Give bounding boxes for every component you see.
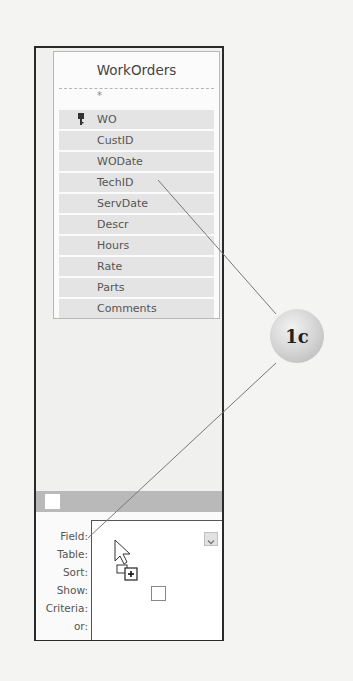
field-label: ServDate xyxy=(97,197,148,210)
row-label-sort: Sort: xyxy=(63,566,88,578)
field-item-hours[interactable]: Hours xyxy=(59,236,214,255)
field-label: WO xyxy=(97,113,117,126)
design-grid-column[interactable] xyxy=(91,520,222,640)
field-label: Parts xyxy=(97,281,124,294)
field-label: Hours xyxy=(97,239,129,252)
field-item-custid[interactable]: CustID xyxy=(59,131,214,150)
chevron-down-icon xyxy=(205,536,217,548)
field-item-parts[interactable]: Parts xyxy=(59,278,214,297)
workorders-field-list[interactable]: WorkOrders * WO CustID WODate TechID Ser… xyxy=(53,51,220,319)
row-label-show: Show: xyxy=(57,584,88,596)
title-divider xyxy=(59,88,214,89)
table-title: WorkOrders xyxy=(54,62,219,78)
pane-splitter-bar[interactable] xyxy=(36,491,222,512)
row-label-criteria: Criteria: xyxy=(46,602,88,614)
field-item-descr[interactable]: Descr xyxy=(59,215,214,234)
row-label-or: or: xyxy=(74,620,88,632)
callout-label: 1c xyxy=(270,309,324,363)
field-label: Comments xyxy=(97,302,157,315)
show-checkbox[interactable] xyxy=(151,586,166,601)
field-label: Rate xyxy=(97,260,122,273)
field-item-rate[interactable]: Rate xyxy=(59,257,214,276)
field-item-wo[interactable]: WO xyxy=(59,110,214,129)
field-item-comments[interactable]: Comments xyxy=(59,299,214,318)
row-label-table: Table: xyxy=(57,548,88,560)
field-label: WODate xyxy=(97,155,143,168)
field-item-wodate[interactable]: WODate xyxy=(59,152,214,171)
row-label-field: Field: xyxy=(60,530,88,542)
primary-key-icon xyxy=(78,113,84,125)
field-label: CustID xyxy=(97,134,133,147)
field-item-servdate[interactable]: ServDate xyxy=(59,194,214,213)
all-fields-asterisk[interactable]: * xyxy=(97,90,102,101)
callout-1c: 1c xyxy=(270,309,324,363)
grid-selector-box[interactable] xyxy=(44,493,61,510)
field-item-techid[interactable]: TechID xyxy=(59,173,214,192)
field-label: TechID xyxy=(97,176,133,189)
field-label: Descr xyxy=(97,218,129,231)
field-dropdown-button[interactable] xyxy=(204,532,218,546)
